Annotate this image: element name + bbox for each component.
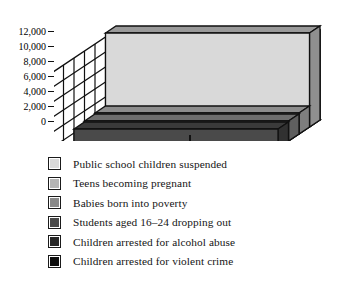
y-axis-labels: 12,000 10,000 8,000 6,000 4,000 2,000 0: [0, 0, 46, 150]
y-tick-label: 2,000: [24, 102, 47, 112]
chart-page: 12,000 10,000 8,000 6,000 4,000 2,000 0: [0, 0, 353, 283]
legend-swatch-icon: [48, 196, 61, 209]
legend-item[interactable]: Children arrested for alcohol abuse: [48, 232, 348, 252]
chart-legend: Public school children suspended Teens b…: [48, 154, 348, 271]
legend-item[interactable]: Teens becoming pregnant: [48, 174, 348, 194]
y-tick-label: 10,000: [19, 42, 47, 52]
bar-series-4: [74, 122, 289, 141]
legend-item-label: Children arrested for alcohol abuse: [73, 236, 235, 248]
three-d-bar-chart: 12,000 10,000 8,000 6,000 4,000 2,000 0: [0, 0, 353, 150]
y-tick-label: 12,000: [19, 27, 47, 37]
legend-swatch-icon: [48, 255, 61, 268]
legend-swatch-icon: [48, 235, 61, 248]
legend-item-label: Children arrested for violent crime: [73, 255, 233, 267]
legend-item-label: Students aged 16–24 dropping out: [73, 216, 231, 228]
legend-item-label: Babies born into poverty: [73, 197, 187, 209]
legend-item[interactable]: Children arrested for violent crime: [48, 252, 348, 272]
legend-item[interactable]: Public school children suspended: [48, 154, 348, 174]
legend-swatch-icon: [48, 177, 61, 190]
legend-swatch-icon: [48, 157, 61, 170]
legend-item[interactable]: Babies born into poverty: [48, 193, 348, 213]
legend-item-label: Teens becoming pregnant: [73, 177, 191, 189]
y-tick-label: 4,000: [24, 87, 47, 97]
y-tick-label: 6,000: [24, 72, 47, 82]
y-tick-label: 0: [41, 117, 46, 127]
legend-swatch-icon: [48, 216, 61, 229]
legend-item-label: Public school children suspended: [73, 158, 227, 170]
y-tick-label: 8,000: [24, 57, 47, 67]
chart-plot-area: [54, 16, 344, 136]
legend-item[interactable]: Students aged 16–24 dropping out: [48, 213, 348, 233]
